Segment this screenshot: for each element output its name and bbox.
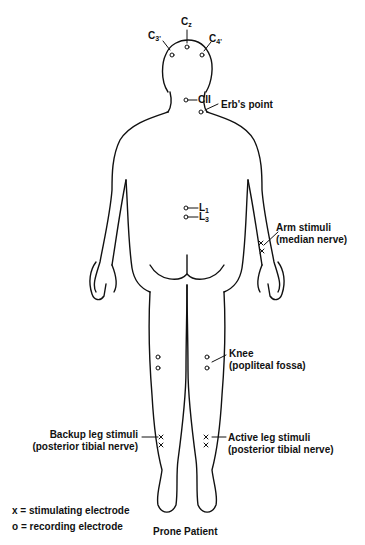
electrode-c3-label: C3' bbox=[148, 30, 161, 45]
backup-leg-title: Backup leg stimuli bbox=[2, 429, 138, 441]
legend: x = stimulating electrode o = recording … bbox=[12, 505, 130, 533]
backup-leg-stimuli-label: Backup leg stimuli (posterior tibial ner… bbox=[2, 429, 138, 453]
prone-body-outline bbox=[0, 0, 365, 545]
knee-title: Knee bbox=[229, 348, 306, 360]
electrode-l3-label: L3 bbox=[199, 211, 209, 226]
active-leg-nerve: (posterior tibial nerve) bbox=[228, 444, 334, 456]
legend-recording: o = recording electrode bbox=[12, 521, 130, 533]
legend-stimulating: x = stimulating electrode bbox=[12, 505, 130, 517]
electrode-cz-label: Cz bbox=[181, 16, 192, 31]
erbs-point-label: Erb's point bbox=[221, 99, 273, 111]
active-leg-stimuli-label: Active leg stimuli (posterior tibial ner… bbox=[228, 432, 334, 456]
backup-leg-nerve: (posterior tibial nerve) bbox=[2, 441, 138, 453]
caption: Prone Patient bbox=[153, 526, 217, 538]
arm-stimuli-label: Arm stimuli (median nerve) bbox=[276, 222, 347, 246]
electrode-cii-label: CII bbox=[198, 94, 211, 106]
arm-stimuli-title: Arm stimuli bbox=[276, 222, 347, 234]
active-leg-title: Active leg stimuli bbox=[228, 432, 334, 444]
knee-label: Knee (popliteal fossa) bbox=[229, 348, 306, 372]
knee-location: (popliteal fossa) bbox=[229, 360, 306, 372]
arm-stimuli-nerve: (median nerve) bbox=[276, 234, 347, 246]
electrode-c4-label: C4' bbox=[209, 33, 222, 48]
